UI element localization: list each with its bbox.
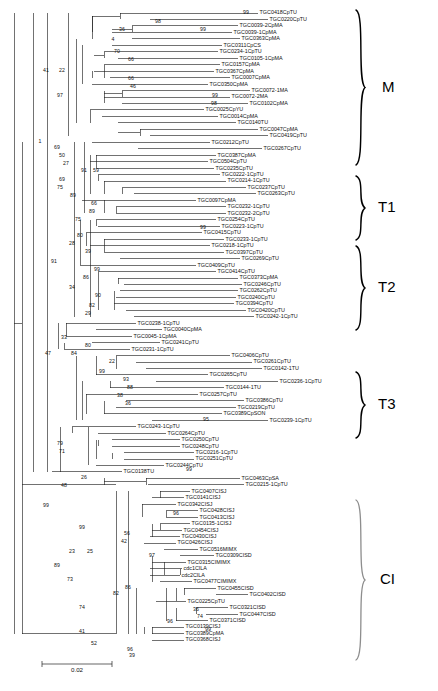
group-label-CI: CI	[380, 570, 395, 587]
bootstrap-value: 46	[130, 83, 136, 89]
bootstrap-value: 99	[200, 224, 206, 230]
bootstrap-value: 25	[87, 548, 93, 554]
bootstrap-value: 96	[173, 510, 179, 516]
tip-label-TGC0140TU: TGC0140TU	[238, 119, 269, 125]
brace-group-T3	[356, 372, 365, 438]
bootstrap-value: 28	[69, 240, 75, 246]
tip-label-TGC0236-1CpTU: TGC0236-1CpTU	[280, 378, 322, 384]
tip-label-TGC0407CISJ: TGC0407CISJ	[192, 488, 227, 494]
bootstrap-value: 82	[113, 590, 119, 596]
bootstrap-value: 99	[212, 92, 218, 98]
tip-label-cdc1CILA: cdc1CILA	[184, 565, 208, 571]
bootstrap-value: 22	[59, 67, 65, 73]
tip-label-TGC0014CpMA: TGC0014CpMA	[220, 113, 259, 119]
bootstrap-value: 52	[91, 640, 97, 646]
tip-label-TGC0157CpMA: TGC0157CpMA	[222, 61, 261, 67]
bootstrap-value: 75	[75, 216, 81, 222]
tip-label-TGC0097CpMA: TGC0097CpMA	[198, 197, 237, 203]
bootstrap-value: 86	[125, 584, 131, 590]
bootstrap-value: 4	[112, 36, 115, 42]
bootstrap-value: 98	[211, 100, 217, 106]
tip-label-TGC0214-1CpTU: TGC0214-1CpTU	[228, 177, 270, 183]
tip-label-TGC0420CpTU: TGC0420CpTU	[248, 307, 286, 313]
bootstrap-value: 23	[69, 548, 75, 554]
bootstrap-value: 69	[54, 144, 60, 150]
bootstrap-value: 93	[123, 376, 129, 382]
tip-label-TGC0321CISD: TGC0321CISD	[230, 604, 266, 610]
bootstrap-value: 99	[43, 502, 49, 508]
tip-label-TGC0397CpTU: TGC0397CpTU	[226, 249, 264, 255]
tip-label-TGC0243-1CpTU: TGC0243-1CpTU	[138, 423, 180, 429]
bootstrap-value: 89	[89, 208, 95, 214]
group-label-T2: T2	[378, 278, 396, 295]
tip-label-TGC0246CpTU: TGC0246CpTU	[244, 281, 282, 287]
tip-label-TGC0047CpMA: TGC0047CpMA	[260, 126, 299, 132]
bootstrap-value: 99	[205, 626, 211, 632]
bootstrap-value: 36	[119, 26, 125, 32]
group-label-T1: T1	[378, 198, 396, 215]
tip-label-TGC0415CpTU: TGC0415CpTU	[204, 229, 242, 235]
tip-label-TGC0516MIMX: TGC0516MIMX	[200, 546, 238, 552]
tip-label-TGC0223-1CpTU: TGC0223-1CpTU	[222, 223, 264, 229]
tip-label-TGC0315CIMIMX: TGC0315CIMIMX	[188, 559, 231, 565]
tip-label-TGC0454CISJ: TGC0454CISJ	[184, 527, 219, 533]
tip-label-TGC0367CpMA: TGC0367CpMA	[216, 68, 255, 74]
tip-label-TGC0135-1CISJ: TGC0135-1CISJ	[192, 520, 232, 526]
tip-label-TGC0218-1CpTU: TGC0218-1CpTU	[212, 242, 254, 248]
tip-label-TGC0394CpTU: TGC0394CpTU	[236, 300, 274, 306]
tip-label-TGC0237CpTU: TGC0237CpTU	[248, 184, 286, 190]
brace-group-T1	[356, 176, 365, 240]
tip-label-TGC0261CpTU: TGC0261CpTU	[254, 358, 292, 364]
tip-label-TGC0342CISJ: TGC0342CISJ	[178, 501, 213, 507]
bootstrap-value: 99	[79, 524, 85, 530]
tip-label-TGC0402CISD: TGC0402CISD	[250, 591, 286, 597]
tree-canvas: TGC0418CpTUTGC0220CpTUTGC0039-2CpMATGC00…	[0, 0, 438, 691]
tip-label-TGC0234-1CpTU: TGC0234-1CpTU	[220, 48, 262, 54]
bootstrap-value: 95	[203, 416, 209, 422]
tip-label-cdc2CILA: cdc2CILA	[182, 572, 206, 578]
bootstrap-value: 66	[128, 75, 134, 81]
tip-label-TGC0251CpTU: TGC0251CpTU	[196, 455, 234, 461]
bootstrap-value: 88	[127, 384, 133, 390]
bootstrap-value: 69	[59, 176, 65, 182]
tip-label-TGC0235CpTU: TGC0235CpTU	[216, 165, 254, 171]
bootstrap-value: 39	[129, 652, 135, 658]
tip-label-TGC0413CISJ: TGC0413CISJ	[200, 514, 235, 520]
tip-label-TGC0373CpMA: TGC0373CpMA	[240, 274, 279, 280]
bootstrap-value: 22	[109, 358, 115, 364]
bootstrap-value: 66	[128, 56, 134, 62]
scale-bar: 0.02	[42, 661, 112, 673]
tip-label-TGC0269CpTU: TGC0269CpTU	[242, 255, 280, 261]
tip-label-TGC0257CpTU: TGC0257CpTU	[200, 391, 238, 397]
bootstrap-value: 38	[117, 392, 123, 398]
bootstrap-value: 89	[54, 562, 60, 568]
tip-label-TGC0419CpTU: TGC0419CpTU	[270, 132, 308, 138]
tip-label-TGC0477CIMIMX: TGC0477CIMIMX	[194, 578, 237, 584]
tip-label-TGC0238-1CpTU: TGC0238-1CpTU	[138, 320, 180, 326]
bootstrap-value: 26	[81, 474, 87, 480]
bootstrap-value: 47	[45, 350, 51, 356]
bootstrap-value: 80	[85, 342, 91, 348]
tip-label-TGC0007CpMA: TGC0007CpMA	[232, 74, 271, 80]
tip-label-TGC0371CISD: TGC0371CISD	[210, 617, 246, 623]
bootstrap-value: 75	[57, 184, 63, 190]
tip-label-TGC0368CISJ: TGC0368CISJ	[186, 636, 221, 642]
bootstrap-value: 90	[95, 292, 101, 298]
group-label-T3: T3	[378, 395, 396, 412]
tip-label-TGC0426CISJ: TGC0426CISJ	[178, 539, 213, 545]
bootstrap-value: 99	[243, 9, 249, 15]
tip-label-TGC0414CpTU: TGC0414CpTU	[218, 268, 256, 274]
tip-label-TGC0504CpTU: TGC0504CpTU	[210, 158, 248, 164]
tip-label-TGC0409CpTU: TGC0409CpTU	[198, 262, 236, 268]
tip-label-TGC0250CpTU: TGC0250CpTU	[182, 436, 220, 442]
tip-label-TGC0144-1TU: TGC0144-1TU	[226, 384, 261, 390]
tip-label-TGC0216-1CpTU: TGC0216-1CpTU	[196, 449, 238, 455]
tip-label-TGC0387CpMA: TGC0387CpMA	[218, 152, 257, 158]
bootstrap-value: 70	[114, 48, 120, 54]
tip-label-TGC0242-1CpTU: TGC0242-1CpTU	[256, 313, 298, 319]
tip-label-TGC0406CpTU: TGC0406CpTU	[232, 352, 270, 358]
bootstrap-value: 91	[81, 167, 87, 173]
tip-label-TGC0212CpTU: TGC0212CpTU	[212, 139, 250, 145]
bootstrap-value: 73	[67, 576, 73, 582]
tip-label-TGC0138TU: TGC0138TU	[124, 468, 155, 474]
